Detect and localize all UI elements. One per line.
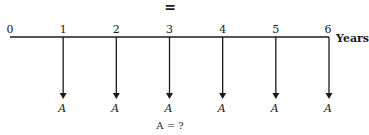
arrowhead-icon <box>60 93 67 99</box>
payment-label: A <box>110 102 119 115</box>
axis-unit-label: Years <box>335 32 369 45</box>
arrowhead-icon <box>166 93 173 99</box>
payment-arrow-6: A <box>323 37 332 115</box>
period-label-5: 5 <box>272 23 279 36</box>
payment-label: A <box>323 102 332 115</box>
arrowhead-icon <box>219 93 226 99</box>
arrowhead-icon <box>272 93 279 99</box>
period-label-1: 1 <box>60 23 67 36</box>
cash-flow-diagram: = 0123456 AAAAAA Years A = ? <box>0 0 369 135</box>
payment-arrow-5: A <box>270 37 279 115</box>
period-label-4: 4 <box>219 23 226 36</box>
period-label-0: 0 <box>7 23 14 36</box>
arrowhead-icon <box>326 93 333 99</box>
payment-label: A <box>164 102 173 115</box>
period-label-3: 3 <box>166 23 173 36</box>
period-label-2: 2 <box>113 23 120 36</box>
payment-label: A <box>217 102 226 115</box>
unknown-question: A = ? <box>155 120 183 131</box>
payment-arrow-1: A <box>57 37 66 115</box>
arrowhead-icon <box>113 93 120 99</box>
payment-arrow-2: A <box>110 37 119 115</box>
period-label-6: 6 <box>325 23 332 36</box>
payment-label: A <box>270 102 279 115</box>
payment-label: A <box>57 102 66 115</box>
payment-arrow-3: A <box>164 37 173 115</box>
equals-sign: = <box>164 0 176 15</box>
payment-arrow-4: A <box>217 37 226 115</box>
